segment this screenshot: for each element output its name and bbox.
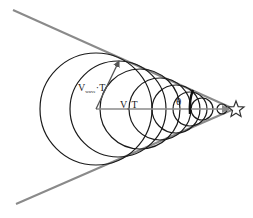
upper-cone-line <box>13 10 234 109</box>
wave-distance-label: Vwave·T <box>78 82 105 94</box>
diagram-canvas: Vwave·T Vs T θ <box>0 0 253 218</box>
mach-cone-diagram: Vwave·T Vs T θ <box>0 0 253 218</box>
star-icon <box>228 101 244 117</box>
angle-theta-label: θ <box>176 95 181 107</box>
source-distance-label: Vs T <box>120 99 138 111</box>
